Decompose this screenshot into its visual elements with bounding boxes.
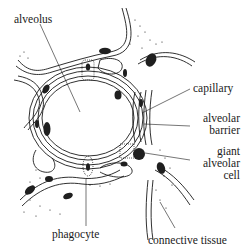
label-giant-line2: alveolar bbox=[194, 157, 240, 169]
label-giant-alveolar-cell: giant alveolar cell bbox=[194, 145, 240, 181]
connective-tissue-leader-line bbox=[160, 202, 175, 228]
label-alveolar-barrier-line1: alveolar bbox=[194, 112, 240, 124]
barrier-leader-line bbox=[144, 124, 190, 126]
label-phagocyte: phagocyte bbox=[52, 228, 99, 240]
label-capillary: capillary bbox=[193, 82, 233, 94]
label-alveolar-barrier: alveolar barrier bbox=[194, 112, 240, 136]
capillary-leader-line bbox=[142, 89, 190, 113]
label-alveolar-barrier-line2: barrier bbox=[194, 124, 240, 136]
label-alveolus: alveolus bbox=[14, 13, 52, 25]
giant-cell-leader-line bbox=[145, 153, 190, 160]
label-giant-line3: cell bbox=[194, 169, 240, 181]
alveolus-diagram: alveolus capillary alveolar barrier gian… bbox=[0, 0, 243, 250]
label-giant-line1: giant bbox=[194, 145, 240, 157]
label-connective-tissue: connective tissue bbox=[148, 234, 227, 246]
